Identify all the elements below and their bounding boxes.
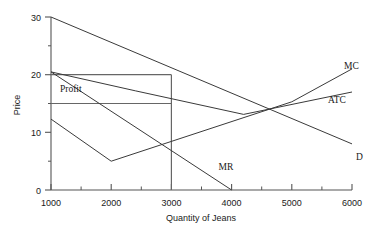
- y-tick-label-0: 0: [36, 186, 41, 196]
- x-tick-label-1000: 1000: [41, 198, 61, 208]
- x-tick-label-4000: 4000: [222, 198, 242, 208]
- y-tick-label-30: 30: [31, 13, 41, 23]
- y-tick-label-20: 20: [31, 70, 41, 80]
- x-tick-group: [51, 184, 352, 190]
- label-profit: Profit: [60, 84, 82, 94]
- x-tick-label-6000: 6000: [342, 198, 362, 208]
- marginal-cost-curve: [51, 69, 352, 161]
- demand-curve: [51, 17, 352, 144]
- y-tick-labels: 30 20 10 0: [31, 13, 41, 196]
- label-d: D: [356, 152, 363, 162]
- x-tick-labels: 1000 2000 3000 4000 5000 6000: [41, 198, 362, 208]
- y-tick-label-10: 10: [31, 128, 41, 138]
- label-mc: MC: [344, 61, 359, 71]
- label-mr: MR: [219, 162, 234, 172]
- x-axis-title: Quantity of Jeans: [166, 213, 237, 223]
- curve-labels: MC ATC D MR: [219, 61, 363, 172]
- x-tick-label-2000: 2000: [101, 198, 121, 208]
- chart-plot-area: 30 20 10 0 1000 2000 3000 4000 5000 6: [0, 0, 381, 236]
- x-tick-label-5000: 5000: [282, 198, 302, 208]
- y-axis-title: Price: [12, 95, 22, 116]
- x-tick-label-3000: 3000: [161, 198, 181, 208]
- economics-monopoly-chart: 30 20 10 0 1000 2000 3000 4000 5000 6: [0, 0, 381, 236]
- y-tick-group: [45, 17, 51, 190]
- label-atc: ATC: [328, 95, 346, 105]
